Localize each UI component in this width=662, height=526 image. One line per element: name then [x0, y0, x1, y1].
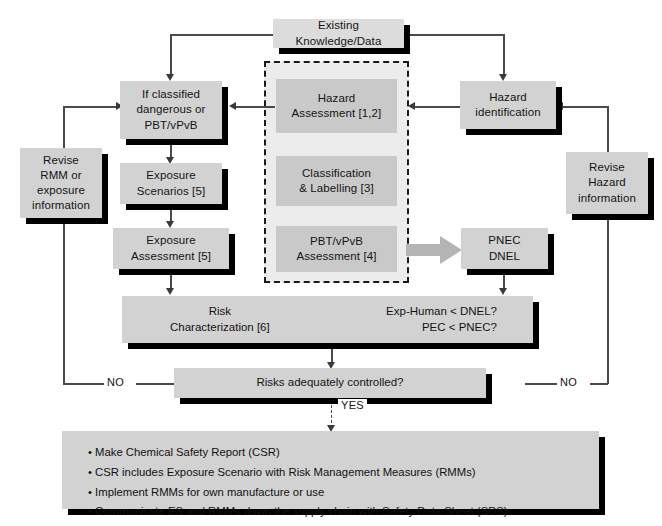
flowchart-canvas: NO NO YES Existing Knowledge/Data If cla… [0, 0, 662, 526]
line-1: Hazard [489, 91, 527, 103]
arrow-to-exposure-assessment [166, 221, 174, 228]
line-2: & Labelling [3] [299, 182, 373, 194]
node-exposure-assessment-label: Exposure Assessment [5] [125, 231, 217, 265]
connector-reviserrm-to-ifclassified [63, 106, 117, 108]
line-1: Exposure [146, 234, 195, 246]
node-risks-controlled[interactable]: Risks adequately controlled? [174, 368, 486, 398]
edge-label-yes: YES [338, 399, 367, 411]
connector-revisehazard-to-hazid [562, 106, 608, 108]
connector-knowledge-to-left [170, 34, 273, 36]
node-if-classified[interactable]: If classified dangerous or PBT/vPvB [120, 81, 222, 139]
connector-knowledge-to-right [404, 34, 504, 36]
outcome-bullet: Communicate ES and RMMs down the supply … [88, 502, 599, 522]
connector-hazid-to-hazassessment [414, 106, 460, 108]
node-existing-knowledge-label: Existing Knowledge/Data [273, 16, 404, 50]
line-3: information [578, 192, 636, 204]
node-risk-criteria-label: Exp-Human < DNEL? PEC < PNEC? [386, 304, 497, 335]
node-pbt-vpvb-assessment-label: PBT/vPvB Assessment [4] [290, 232, 382, 266]
connector-no-right-a [525, 383, 560, 385]
node-exposure-scenarios-label: Exposure Scenarios [5] [131, 166, 211, 200]
connector-no-left-up [63, 218, 65, 384]
connector-no-left-b [63, 383, 105, 385]
outcome-bullet: CSR includes Exposure Scenario with Risk… [88, 463, 599, 483]
connector-yes-dashed [331, 400, 332, 428]
node-existing-knowledge[interactable]: Existing Knowledge/Data [273, 19, 404, 48]
node-pnec-dnel[interactable]: PNEC DNEL [461, 228, 548, 269]
line-2: DNEL [489, 250, 520, 262]
arrow-to-risk-characterization [166, 288, 174, 295]
node-pnec-dnel-label: PNEC DNEL [482, 231, 526, 265]
line-3: PBT/vPvB [144, 119, 197, 131]
arrow-hazassessment-in [408, 102, 415, 110]
block-arrow-pbt-to-pnec [406, 235, 462, 265]
line-1: PNEC [488, 234, 520, 246]
line-1: Revise [43, 154, 79, 166]
node-hazard-assessment[interactable]: Hazard Assessment [1,2] [276, 79, 397, 133]
node-if-classified-label: If classified dangerous or PBT/vPvB [131, 85, 212, 135]
node-pbt-vpvb-assessment[interactable]: PBT/vPvB Assessment [4] [276, 226, 397, 272]
arrow-to-if-classified [166, 74, 174, 81]
connector-no-right-up [607, 218, 609, 384]
connector-hazassessment-to-ifclassified [235, 106, 275, 108]
node-classification-labelling-label: Classification & Labelling [3] [293, 164, 379, 198]
line-4: information [32, 199, 90, 211]
connector-knowledge-left-down [170, 34, 172, 76]
arrow-to-hazard-identification [499, 74, 507, 81]
line-2: Characterization [6] [170, 321, 270, 333]
node-risk-characterization[interactable]: Risk Characterization [6] Exp-Human < DN… [122, 296, 533, 343]
line-3: exposure [37, 184, 85, 196]
arrow-ifclassified-in-right [229, 102, 236, 110]
connector-revisehazard-up [607, 106, 609, 156]
outcome-bullet: Make Chemical Safety Report (CSR) [88, 443, 599, 463]
connector-no-right-b [590, 383, 608, 385]
node-risks-controlled-label: Risks adequately controlled? [174, 375, 486, 390]
line-2: identification [475, 106, 540, 118]
node-risk-characterization-label: Risk Characterization [6] [170, 304, 270, 335]
connector-no-left-a [136, 383, 174, 385]
line-2: Hazard [588, 176, 626, 188]
line-2: Scenarios [5] [137, 185, 205, 197]
line-2: dangerous or [137, 103, 206, 115]
line-1: Revise [589, 161, 625, 173]
line-1: Exp-Human < DNEL? [386, 305, 497, 317]
connector-risk-to-decision [331, 344, 333, 364]
line-2: RMM or [40, 169, 82, 181]
edge-label-no-right: NO [557, 376, 580, 388]
arrow-to-risk-criteria [499, 288, 507, 295]
line-1: Risk [209, 305, 231, 317]
node-outcome-actions[interactable]: Make Chemical Safety Report (CSR) CSR in… [62, 431, 599, 509]
outcome-bullet: Implement RMMs for own manufacture or us… [88, 483, 599, 503]
line-2: PEC < PNEC? [422, 321, 497, 333]
line-1: Exposure [146, 169, 195, 181]
line-2: Assessment [4] [296, 250, 376, 262]
node-revise-hazard[interactable]: Revise Hazard information [566, 152, 648, 214]
node-hazard-assessment-label: Hazard Assessment [1,2] [286, 89, 388, 123]
line-2: Assessment [1,2] [292, 107, 382, 119]
line-2: Assessment [5] [131, 250, 211, 262]
node-classification-labelling[interactable]: Classification & Labelling [3] [276, 156, 397, 206]
node-exposure-scenarios[interactable]: Exposure Scenarios [5] [120, 163, 222, 204]
edge-label-no-left: NO [104, 376, 127, 388]
arrow-hazid-in-right [556, 102, 563, 110]
node-hazard-identification-label: Hazard identification [469, 88, 546, 122]
line-1: Classification [302, 167, 371, 179]
line-1: Hazard [318, 92, 356, 104]
connector-knowledge-right-down [503, 34, 505, 76]
node-hazard-identification[interactable]: Hazard identification [460, 81, 556, 129]
node-revise-rmm[interactable]: Revise RMM or exposure information [20, 148, 102, 218]
line-1: PBT/vPvB [310, 235, 363, 247]
node-exposure-assessment[interactable]: Exposure Assessment [5] [113, 228, 229, 269]
node-revise-hazard-label: Revise Hazard information [572, 158, 642, 208]
line-1: If classified [142, 88, 200, 100]
node-revise-rmm-label: Revise RMM or exposure information [26, 151, 96, 216]
